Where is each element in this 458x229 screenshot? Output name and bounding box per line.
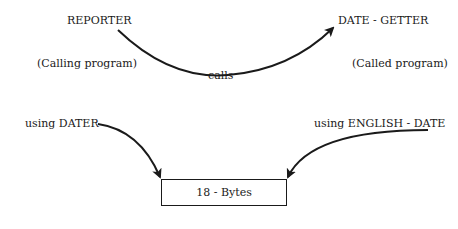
callee-program-role: (Called program) <box>352 58 448 69</box>
shared-storage-box: 18 - Bytes <box>161 179 287 206</box>
dater-arrow <box>98 124 160 177</box>
english-date-arrow <box>288 130 428 177</box>
calls-label: calls <box>208 70 233 81</box>
caller-program-role: (Calling program) <box>37 58 137 69</box>
callee-program-name: DATE - GETTER <box>338 15 428 26</box>
shared-storage-label: 18 - Bytes <box>196 186 252 199</box>
callee-param-label: using ENGLISH - DATE <box>314 118 445 129</box>
caller-program-name: REPORTER <box>67 15 131 26</box>
caller-param-label: using DATER <box>25 118 99 129</box>
